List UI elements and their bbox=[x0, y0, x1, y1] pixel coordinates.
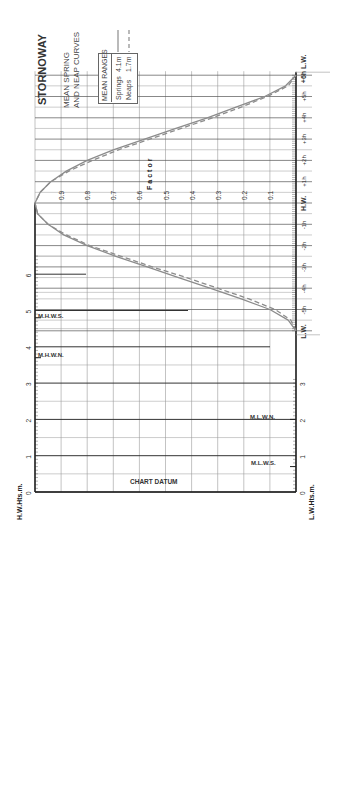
legend-neaps-label: Neaps bbox=[124, 80, 133, 100]
factor-tick-label: 0.8 bbox=[84, 191, 91, 200]
legend-header: MEAN RANGES bbox=[100, 49, 109, 101]
legend-divider bbox=[111, 53, 112, 102]
chart-title: STORNOWAY bbox=[36, 34, 48, 105]
hw-height-tick-label: 4 bbox=[25, 346, 32, 350]
mhws-label: M.H.W.S. bbox=[38, 313, 63, 319]
time-tick-label: +3h bbox=[301, 134, 307, 144]
lw-height-tick-label: 0 bbox=[299, 491, 306, 495]
hw-height-tick-label: 0 bbox=[25, 491, 32, 495]
time-tick-label: +1h bbox=[301, 177, 307, 187]
tidal-curve-chart: 001122334560.10.20.30.40.50.60.70.80.9L.… bbox=[0, 0, 340, 785]
hw-heights-axis-label: H.W.Hts.m. bbox=[16, 483, 23, 520]
hw-height-tick-label: 2 bbox=[25, 418, 32, 422]
time-tick-label: -3h bbox=[301, 263, 307, 272]
time-tick-label: H.W. bbox=[300, 196, 307, 211]
legend-springs-value: 4.1m bbox=[114, 56, 123, 72]
chart-datum-label: CHART DATUM bbox=[130, 478, 178, 485]
factor-tick-label: 0.3 bbox=[215, 191, 222, 200]
lw-height-tick-label: 3 bbox=[299, 382, 306, 386]
lw-heights-axis-label: L.W.Hts.m. bbox=[308, 484, 315, 520]
factor-tick-label: 0.6 bbox=[136, 191, 143, 200]
mlws-label: M.L.W.S. bbox=[251, 460, 276, 466]
hw-height-tick-label: 6 bbox=[25, 273, 32, 277]
chart-canvas: 001122334560.10.20.30.40.50.60.70.80.9L.… bbox=[0, 0, 340, 785]
factor-tick-label: 0.4 bbox=[189, 191, 196, 200]
time-tick-label: +4h bbox=[301, 113, 307, 123]
time-tick-label: +6h L.W. bbox=[300, 55, 307, 84]
factor-tick-label: 0.7 bbox=[110, 191, 117, 200]
hw-height-tick-label: 1 bbox=[25, 455, 32, 459]
time-tick-label: -2h bbox=[301, 242, 307, 251]
factor-axis-label: Factor bbox=[146, 157, 153, 190]
time-tick-label: -4h bbox=[301, 285, 307, 294]
lw-height-tick-label: 1 bbox=[299, 455, 306, 459]
factor-tick-label: 0.5 bbox=[163, 191, 170, 200]
legend-neaps-value: 1.7m bbox=[124, 56, 133, 72]
subtitle-line1: MEAN SPRING bbox=[62, 52, 71, 108]
time-tick-label: -1h bbox=[301, 221, 307, 230]
time-tick-label: L.W. bbox=[300, 324, 307, 338]
subtitle-line2: AND NEAP CURVES bbox=[72, 32, 81, 108]
legend-springs-label: Springs bbox=[114, 76, 123, 100]
mhwn-label: M.H.W.N. bbox=[38, 352, 64, 358]
hw-height-tick-label: 3 bbox=[25, 382, 32, 386]
lw-height-tick-label: 2 bbox=[299, 418, 306, 422]
factor-tick-label: 0.9 bbox=[58, 191, 65, 200]
time-tick-label: +2h bbox=[301, 155, 307, 165]
mlwn-label: M.L.W.N. bbox=[250, 414, 275, 420]
factor-tick-label: 0.1 bbox=[267, 191, 274, 200]
factor-tick-label: 0.2 bbox=[241, 191, 248, 200]
time-tick-label: +5h bbox=[301, 91, 307, 101]
time-tick-label: -5h bbox=[301, 306, 307, 315]
hw-height-tick-label: 5 bbox=[25, 310, 32, 314]
